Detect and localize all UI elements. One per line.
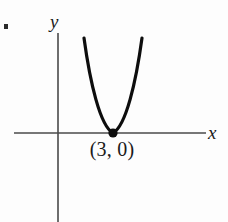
coordinate-plane-svg: [0, 0, 228, 222]
y-axis-label: y: [50, 12, 58, 31]
vertex-coordinate-label: (3, 0): [0, 139, 226, 159]
graph-figure: y x (3, 0): [0, 0, 228, 222]
parabola-curve: [84, 38, 142, 133]
vertex-point: [108, 128, 117, 137]
